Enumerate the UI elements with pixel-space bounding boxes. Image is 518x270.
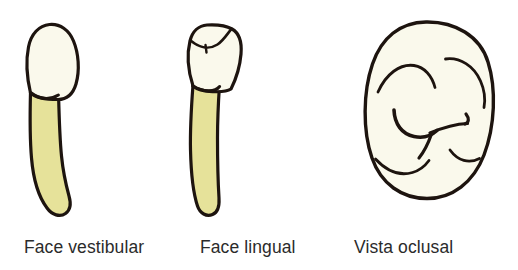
panel-occlusal [330, 0, 518, 232]
root-shape-lingual [190, 85, 219, 215]
caption-row: Face vestibular Face lingual Vista oclus… [0, 234, 518, 270]
cusp-tip-tick-lingual [206, 45, 207, 53]
crown-shape-vestibular [27, 24, 78, 99]
panel-lingual [165, 0, 315, 232]
tooth-occlusal-illustration [330, 0, 518, 232]
root-shape-vestibular [30, 92, 70, 215]
tooth-vestibular-illustration [0, 0, 155, 232]
caption-vestibular: Face vestibular [24, 234, 144, 260]
tooth-views-figure: Face vestibular Face lingual Vista oclus… [0, 0, 518, 270]
occlusal-outline [365, 22, 493, 199]
crown-shape-lingual [188, 25, 241, 92]
tooth-lingual-illustration [165, 0, 315, 232]
caption-lingual: Face lingual [200, 234, 296, 260]
panel-vestibular [0, 0, 155, 232]
caption-occlusal: Vista oclusal [354, 234, 453, 260]
